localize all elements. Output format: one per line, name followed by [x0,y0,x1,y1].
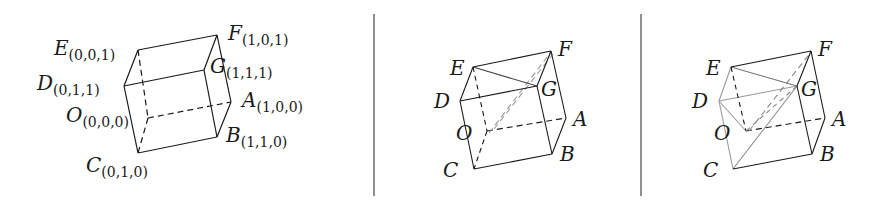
label-D: D [691,89,708,113]
label-E: E [705,56,721,80]
edge-GB [204,70,217,137]
panel-3-cube [719,51,825,169]
edge-CB [138,137,217,153]
label-B: B(1,1,0) [225,123,287,150]
panel-1-labels: E(0,0,1) F(1,0,1) D(0,1,1) G(1,1,1) O(0,… [36,21,303,180]
label-F: F [557,37,573,61]
label-E: E [449,56,465,80]
label-F: F [817,37,833,61]
label-C: C(0,1,0) [86,153,148,180]
edge-EF [138,35,217,50]
label-O: O [714,121,730,145]
edge-EF [731,51,811,67]
label-C: C [443,158,458,182]
edge-ED [719,67,731,101]
edge-OA [148,102,231,118]
edge-OC [138,118,148,153]
edge-OC [474,131,487,169]
edge-ED [124,50,138,86]
label-B: B [819,142,835,166]
edge-DG [124,70,204,86]
edge-EO [138,50,148,118]
label-O: O [456,121,472,145]
edge-CB [733,154,812,169]
label-D: D(0,1,1) [36,71,100,98]
edge-DG [719,86,797,101]
label-D: D [433,89,450,113]
label-G: G [541,77,557,101]
edge-OA [487,118,566,131]
edge-DG [460,86,537,101]
edge-CB [474,154,552,169]
label-C: C [703,158,718,182]
edge-EO [473,67,487,131]
label-E: E(0,0,1) [53,36,115,63]
label-A: A [571,107,587,131]
label-G: G(1,1,1) [210,54,273,81]
figure-canvas: E(0,0,1) F(1,0,1) D(0,1,1) G(1,1,1) O(0,… [0,0,883,204]
label-F: F(1,0,1) [227,21,288,48]
label-A: A [830,107,846,131]
label-B: B [559,142,575,166]
panel-1-cube [124,35,231,153]
label-G: G [801,77,817,101]
edge-EF [473,51,551,67]
label-O: O(0,0,0) [66,103,129,130]
label-A: A(1,0,0) [240,88,303,115]
panel-2-cube [460,51,566,169]
edge-EO [731,67,746,131]
edge-EG [473,67,537,86]
